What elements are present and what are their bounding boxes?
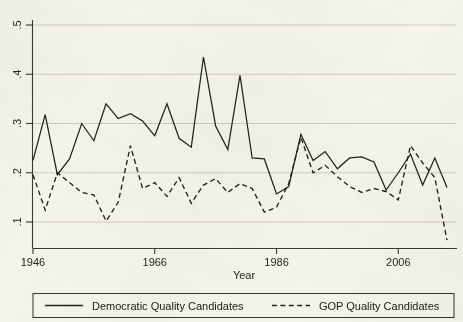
- y-tick-label-4: .5: [11, 20, 23, 29]
- y-tick-marks: [26, 25, 33, 222]
- chart-figure: .1.2.3.4.5 1946196619862006 Year Democra…: [0, 0, 463, 322]
- series-line-gop: [33, 137, 447, 240]
- y-gridlines: [33, 25, 456, 222]
- chart-legend: Democratic Quality Candidates GOP Qualit…: [33, 294, 454, 318]
- x-tick-labels: 1946196619862006: [21, 256, 411, 268]
- x-tick-label-1: 1966: [143, 256, 167, 268]
- x-tick-label-0: 1946: [21, 256, 45, 268]
- legend-label-gop: GOP Quality Candidates: [319, 300, 440, 312]
- y-tick-label-1: .2: [11, 168, 23, 177]
- y-tick-label-0: .1: [11, 217, 23, 226]
- y-tick-labels: .1.2.3.4.5: [11, 20, 23, 226]
- x-tick-marks: [33, 249, 398, 255]
- legend-label-democratic: Democratic Quality Candidates: [92, 300, 244, 312]
- line-chart-canvas: .1.2.3.4.5 1946196619862006 Year Democra…: [0, 0, 463, 322]
- x-axis-title: Year: [233, 269, 256, 281]
- series-line-democratic: [33, 57, 447, 194]
- x-tick-label-3: 2006: [386, 256, 410, 268]
- y-tick-label-2: .3: [11, 119, 23, 128]
- x-tick-label-2: 1986: [264, 256, 288, 268]
- y-tick-label-3: .4: [11, 70, 23, 79]
